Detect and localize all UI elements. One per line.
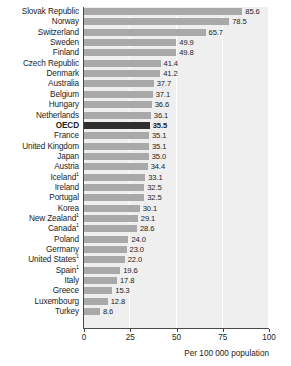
bar-row: OECD35.5 [0,121,291,131]
bar [84,246,127,253]
bar-chart: Slovak Republic85.6Norway78.5Switzerland… [0,0,291,366]
bar-row: Ireland32.5 [0,183,291,193]
bar-row-label: Czech Republic [0,59,79,69]
bar-row-label: France [0,131,79,141]
bar-value-label: 37.7 [157,79,171,89]
bar [84,236,128,243]
bar-value-label: 22.0 [128,255,142,265]
bar-row: Turkey8.6 [0,307,291,317]
bar-value-label: 32.5 [147,193,161,203]
bar-row-label: Germany [0,245,79,255]
bar [84,298,108,305]
bar-value-label: 17.8 [120,276,134,286]
bar [84,80,154,87]
bar-row: New Zealand129.1 [0,214,291,224]
bar-row: Korea30.1 [0,204,291,214]
bar-row-label: United States1 [0,255,79,265]
bar-row-label: Portugal [0,193,79,203]
bar-row-label: Switzerland [0,28,79,38]
bar-row: Portugal32.5 [0,193,291,203]
bar-row: United Kingdom35.1 [0,142,291,152]
x-axis-tickmark [223,329,224,332]
bar [84,174,145,181]
bar-row-label: Iceland1 [0,173,79,183]
bar-value-label: 85.6 [245,7,259,17]
footnote-marker: 1 [76,223,79,229]
bar-row: Luxembourg12.8 [0,297,291,307]
bar-value-label: 23.0 [130,245,144,255]
bar [84,60,161,67]
bar-row-label: Canada1 [0,224,79,234]
bar-value-label: 33.1 [148,173,162,183]
bar [84,101,152,108]
bar [84,184,144,191]
bar-row: Sweden49.9 [0,38,291,48]
bar-value-label: 49.9 [179,38,193,48]
bar [84,39,176,46]
bar-row-label: Ireland [0,183,79,193]
bar-row-label: Poland [0,235,79,245]
bar-row-label: Korea [0,204,79,214]
x-axis-tick-label: 25 [115,333,145,343]
x-axis-tickmark [84,329,85,332]
bar-row: Norway78.5 [0,17,291,27]
bar-row: Canada128.6 [0,224,291,234]
bar [84,163,148,170]
x-axis-tickmark [130,329,131,332]
bar-row: Finland49.8 [0,48,291,58]
bar [84,143,149,150]
x-axis-tickmark [177,329,178,332]
bar [84,91,153,98]
x-axis-tick-label: 100 [254,333,284,343]
bar [84,29,206,36]
x-axis-title: Per 100 000 population [184,349,269,359]
bar-row: Greece15.3 [0,286,291,296]
bar-value-label: 49.8 [179,48,193,58]
bar-value-label: 19.6 [123,266,137,276]
bar-row-label: Australia [0,79,79,89]
bar-row: Czech Republic41.4 [0,59,291,69]
bar-row: Netherlands36.1 [0,111,291,121]
bar [84,132,149,139]
bar-row-label: New Zealand1 [0,214,79,224]
bar-row-label: Denmark [0,69,79,79]
bar [84,49,176,56]
footnote-marker: 1 [76,212,79,218]
bar-row-label: Japan [0,152,79,162]
bar-value-label: 65.7 [209,28,223,38]
bar [84,112,151,119]
bar-value-label: 41.4 [164,59,178,69]
bar-row: Germany23.0 [0,245,291,255]
bar-row: Australia37.7 [0,79,291,89]
bar [84,225,137,232]
bar-value-label: 12.8 [111,297,125,307]
bar-value-label: 35.0 [152,152,166,162]
footnote-marker: 1 [76,264,79,270]
bar-value-label: 35.5 [153,121,167,131]
bar-value-label: 36.1 [154,111,168,121]
bar-row: Italy17.8 [0,276,291,286]
bar-value-label: 24.0 [131,235,145,245]
bar-value-label: 34.4 [151,162,165,172]
bar [84,287,112,294]
bar [84,205,140,212]
bar-row-label: Luxembourg [0,297,79,307]
bar-value-label: 29.1 [141,214,155,224]
bar [84,308,100,315]
bar-row-label: United Kingdom [0,142,79,152]
bar-row-label: Finland [0,48,79,58]
bar-row: Spain119.6 [0,266,291,276]
bar-row-label: Belgium [0,90,79,100]
bar [84,8,242,15]
x-axis-tick-label: 0 [69,333,99,343]
bar-row: Switzerland65.7 [0,28,291,38]
x-axis-tickmark [269,329,270,332]
bar-row-label: Spain1 [0,266,79,276]
footnote-marker: 1 [76,254,79,260]
bar-row: Denmark41.2 [0,69,291,79]
bar-row-label: Turkey [0,307,79,317]
bar [84,256,125,263]
bar-row-label: Italy [0,276,79,286]
bar-value-label: 30.1 [143,204,157,214]
bar-value-label: 37.1 [156,90,170,100]
